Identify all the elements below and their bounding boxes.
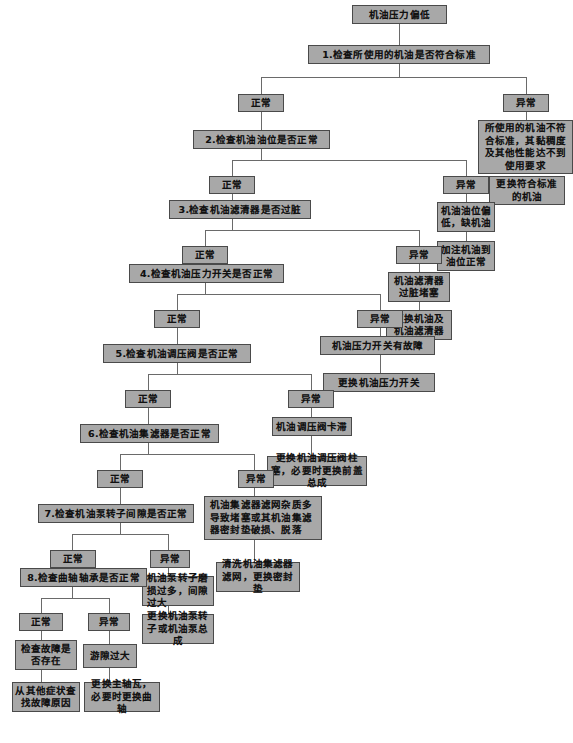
connector-step2-right-drop bbox=[466, 160, 467, 176]
node-step3-normal: 正常 bbox=[182, 246, 228, 264]
connector-step8-normal-to-cause bbox=[41, 631, 42, 640]
connector-step7-left-drop bbox=[72, 534, 73, 550]
node-step7: 7.检查机油泵转子间隙是否正常 bbox=[38, 504, 194, 523]
node-step4-abnormal: 异常 bbox=[357, 310, 403, 328]
node-step3: 3.检查机油滤清器是否过脏 bbox=[169, 200, 311, 219]
node-step2-abnormal-action: 加注机油到油位正常 bbox=[437, 241, 495, 271]
connector-step6-left-drop bbox=[120, 454, 121, 470]
node-step5-abnormal-cause: 机油调压阀卡滞 bbox=[272, 417, 352, 436]
connector-step3-abnormal-to-cause bbox=[419, 264, 420, 272]
connector-step5-abnormal-to-cause bbox=[311, 408, 312, 417]
node-step6-abnormal-cause: 机油集滤器滤网杂质多导致堵塞或其机油集滤器密封垫破损、脱落 bbox=[204, 496, 322, 540]
connector-step4-abnormal-to-cause bbox=[380, 328, 381, 336]
node-step8-abnormal-action: 更换主轴瓦，必要时更换曲轴 bbox=[84, 682, 160, 712]
node-start: 机油压力偏低 bbox=[352, 5, 447, 24]
connector-step3-stem bbox=[232, 219, 233, 230]
connector-step3-left-drop bbox=[205, 230, 206, 246]
connector-step4-cause-to-action bbox=[380, 355, 381, 373]
connector-step8-bus bbox=[41, 598, 109, 599]
node-step3-abnormal: 异常 bbox=[396, 246, 442, 264]
connector-step7-stem bbox=[120, 523, 121, 534]
connector-step3-cause-to-action bbox=[419, 302, 420, 310]
node-step7-abnormal-cause: 机油泵转子磨损过多，间隙过大 bbox=[142, 576, 214, 606]
connector-step7-bus bbox=[72, 534, 168, 535]
node-step4-abnormal-cause: 机油压力开关有故障 bbox=[320, 336, 435, 355]
connector-step5-right-drop bbox=[311, 374, 312, 390]
connector-step3-right-drop bbox=[419, 230, 420, 246]
node-step6-normal: 正常 bbox=[97, 470, 143, 488]
node-step1-normal: 正常 bbox=[238, 94, 284, 112]
connector-step5-normal-to-step6 bbox=[148, 408, 149, 424]
connector-step8-right-drop bbox=[109, 598, 110, 613]
connector-step4-left-drop bbox=[177, 294, 178, 310]
node-step4-normal: 正常 bbox=[154, 310, 200, 328]
connector-step2-left-drop bbox=[232, 160, 233, 176]
node-step1-abnormal: 异常 bbox=[503, 94, 549, 112]
connector-step8-abnormal-to-cause bbox=[109, 631, 110, 644]
connector-step6-right-drop bbox=[254, 454, 255, 470]
node-step2-abnormal-cause: 机油油位偏低，缺机油 bbox=[437, 202, 495, 232]
node-step5-abnormal-action: 更换机油调压阀柱塞，必要时更换前盖总成 bbox=[267, 456, 367, 486]
connector-step4-bus bbox=[177, 294, 380, 295]
connector-step7-right-drop bbox=[168, 534, 169, 550]
connector-step6-bus bbox=[120, 454, 254, 455]
node-step2-abnormal: 异常 bbox=[443, 176, 489, 194]
node-step7-abnormal-action: 更换机油泵转子或机油泵总成 bbox=[142, 614, 214, 644]
connector-step1-bus bbox=[261, 77, 526, 78]
connector-step5-bus bbox=[148, 374, 311, 375]
node-step4-abnormal-action: 更换机油压力开关 bbox=[323, 373, 435, 392]
node-step8: 8.检查曲轴轴承是否正常 bbox=[20, 568, 147, 587]
node-step7-normal: 正常 bbox=[50, 550, 96, 568]
connector-step2-cause-to-action bbox=[466, 232, 467, 241]
connector-step4-normal-to-step5 bbox=[177, 328, 178, 344]
connector-step8-stem bbox=[72, 587, 73, 598]
node-step2-normal: 正常 bbox=[209, 176, 255, 194]
connector-step1-left-drop bbox=[261, 77, 262, 94]
node-step5-abnormal: 异常 bbox=[288, 390, 334, 408]
node-step1: 1.检查所使用的机油是否符合标准 bbox=[308, 45, 490, 64]
node-step8-normal-action: 从其他症状查找故障原因 bbox=[12, 682, 80, 712]
connector-step8-normal-cause-to-action bbox=[41, 670, 42, 682]
connector-step2-abnormal-to-cause bbox=[466, 194, 467, 202]
connector-step6-abnormal-to-cause bbox=[254, 488, 255, 496]
connector-step1-stem bbox=[399, 64, 400, 77]
connector-step1-abnormal-to-cause bbox=[526, 112, 527, 120]
connector-step5-left-drop bbox=[148, 374, 149, 390]
connector-step4-stem bbox=[205, 283, 206, 294]
connector-step5-stem bbox=[177, 363, 178, 374]
connector-step1-right-drop bbox=[526, 77, 527, 94]
node-step7-abnormal: 异常 bbox=[150, 550, 190, 568]
connector-step6-normal-to-step7 bbox=[120, 488, 121, 504]
connector-step3-bus bbox=[205, 230, 419, 231]
connector-start-to-step1 bbox=[399, 24, 400, 45]
node-step6-abnormal-action: 清洗机油集滤器滤网，更换密封垫 bbox=[216, 562, 300, 592]
connector-step2-bus bbox=[232, 160, 466, 161]
connector-step6-stem bbox=[148, 443, 149, 454]
node-step8-normal: 正常 bbox=[19, 613, 63, 631]
node-step4: 4.检查机油压力开关是否正常 bbox=[129, 264, 284, 283]
node-step2: 2.检查机油油位是否正常 bbox=[193, 130, 330, 149]
connector-step8-left-drop bbox=[41, 598, 42, 613]
flowchart-canvas: 机油压力偏低 1.检查所使用的机油是否符合标准 正常 异常 所使用的机油不符合标… bbox=[0, 0, 573, 743]
node-step5: 5.检查机油调压阀是否正常 bbox=[103, 344, 251, 363]
node-step8-abnormal: 异常 bbox=[88, 613, 130, 631]
node-step1-abnormal-action: 更换符合标准的机油 bbox=[489, 176, 565, 205]
node-step8-abnormal-cause: 游隙过大 bbox=[83, 644, 137, 668]
node-step3-abnormal-cause: 机油滤清器过脏堵塞 bbox=[388, 272, 450, 302]
node-step8-normal-cause: 检查故障是否存在 bbox=[15, 640, 77, 670]
connector-step4-right-drop bbox=[380, 294, 381, 310]
node-step6: 6.检查机油集滤器是否正常 bbox=[80, 424, 219, 443]
node-step1-abnormal-cause: 所使用的机油不符合标准，其黏稠度及其他性能达不到使用要求 bbox=[478, 120, 573, 174]
node-step6-abnormal: 异常 bbox=[238, 470, 274, 488]
connector-step1-normal-to-step2 bbox=[261, 112, 262, 130]
connector-step2-stem bbox=[261, 149, 262, 160]
node-step5-normal: 正常 bbox=[125, 390, 171, 408]
